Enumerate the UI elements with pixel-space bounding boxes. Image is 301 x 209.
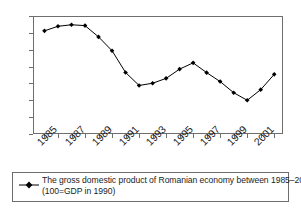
legend-label-line1: The gross domestic product of Romanian e…: [42, 176, 301, 185]
y-tick-mark: [29, 134, 33, 135]
series-line: [44, 25, 274, 101]
data-point-marker: [69, 22, 74, 27]
legend: The gross domestic product of Romanian e…: [12, 172, 289, 202]
x-tick-mark: [166, 134, 167, 138]
x-tick-mark: [193, 134, 194, 138]
x-tick-mark: [85, 134, 86, 138]
x-tick-mark: [247, 134, 248, 138]
x-tick-mark: [112, 134, 113, 138]
data-point-marker: [42, 29, 47, 34]
x-tick-mark: [58, 134, 59, 138]
data-point-marker: [150, 81, 155, 86]
series-gdp: [33, 16, 283, 134]
legend-label-line2: (100=GDP in 1990): [42, 187, 115, 196]
series-marker-icon: [19, 181, 39, 189]
x-tick-mark: [220, 134, 221, 138]
y-axis: 1201101009080706050: [0, 0, 33, 140]
data-point-marker: [56, 24, 61, 29]
x-tick-mark: [274, 134, 275, 138]
gdp-line-chart: 1201101009080706050 19851987198919911993…: [0, 0, 301, 209]
x-tick-mark: [139, 134, 140, 138]
